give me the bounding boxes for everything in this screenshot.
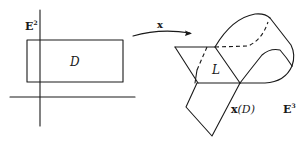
mapping-label: x: [157, 19, 164, 30]
arrowhead-icon: [185, 31, 192, 37]
surface-lower-fold: [240, 50, 292, 83]
surface-xd: L x(D) E3: [175, 14, 296, 136]
surface-upper-arch: [215, 14, 270, 47]
mapping-arrow: x: [133, 19, 192, 36]
arrow-curve: [133, 31, 190, 36]
region-d-label: D: [69, 55, 80, 69]
surface-right-edge: [270, 18, 294, 66]
diagram-canvas: E2 D x L x(D) E3: [0, 0, 303, 149]
surface-hidden-left: [197, 47, 207, 70]
e2-label: E2: [25, 19, 38, 33]
image-xd-label: x(D): [231, 103, 255, 116]
surface-bottom-right: [240, 66, 292, 83]
plane-left-edge: [175, 47, 198, 83]
left-plane: E2 D: [10, 10, 135, 126]
e3-label: E3: [283, 102, 296, 116]
line-l-label: L: [211, 63, 220, 77]
